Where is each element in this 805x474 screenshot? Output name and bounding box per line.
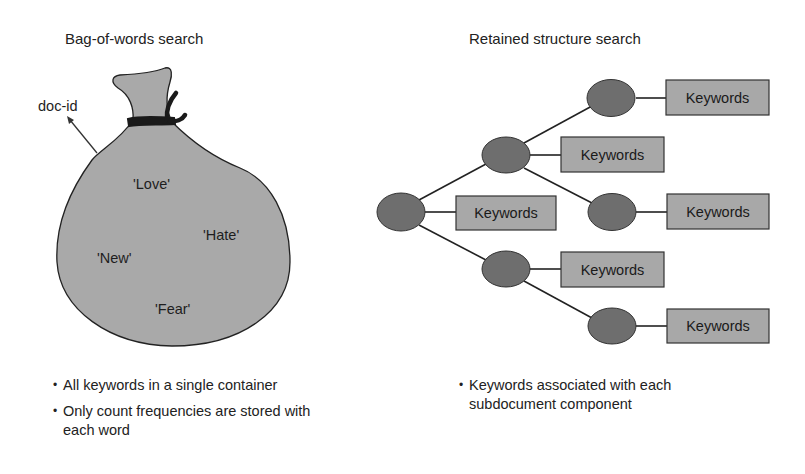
bag-tie-loop bbox=[167, 93, 176, 120]
bag-of-words-bullets: All keywords in a single container Only … bbox=[53, 376, 353, 447]
doc-id-label: doc-id bbox=[38, 98, 78, 114]
retained-structure-bullets: Keywords associated with each subdocumen… bbox=[459, 376, 729, 421]
bullet-item: Keywords associated with each subdocumen… bbox=[459, 376, 724, 414]
tree-node-bottom-leaf bbox=[588, 308, 636, 344]
tree-node-top-leaf bbox=[587, 80, 635, 117]
keyword-label-mid: Keywords bbox=[686, 204, 750, 220]
keyword-label-root: Keywords bbox=[474, 205, 538, 221]
keyword-label-upper: Keywords bbox=[581, 147, 645, 163]
bag-word-fear: 'Fear' bbox=[155, 301, 191, 317]
bag-neck bbox=[113, 68, 172, 122]
edge-root-upper bbox=[419, 164, 486, 200]
tree-node-upper bbox=[482, 137, 530, 173]
bullet-item: All keywords in a single container bbox=[53, 376, 353, 395]
keyword-label-top: Keywords bbox=[686, 90, 750, 106]
bag-word-hate: 'Hate' bbox=[203, 227, 239, 243]
keyword-label-bottom: Keywords bbox=[686, 318, 750, 334]
bag-word-new: 'New' bbox=[97, 250, 132, 266]
keyword-label-lower: Keywords bbox=[581, 262, 645, 278]
bullet-item: Only count frequencies are stored with e… bbox=[53, 402, 323, 440]
tree-node-lower bbox=[482, 251, 530, 287]
tree-node-root bbox=[377, 193, 425, 231]
doc-id-pointer bbox=[67, 116, 97, 153]
tree-node-mid-leaf bbox=[588, 194, 636, 231]
bag-word-love: 'Love' bbox=[133, 176, 170, 192]
